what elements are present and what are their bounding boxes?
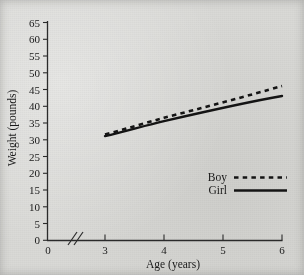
y-axis-ticks (43, 23, 48, 241)
y-tick-label: 10 (29, 201, 41, 213)
series-line-boy (105, 86, 282, 134)
x-axis-ticks (105, 235, 282, 241)
x-axis-tick-labels: 3 4 5 6 (102, 244, 285, 256)
chart-figure: 65 60 55 50 45 40 35 30 25 20 15 10 5 0 … (0, 0, 304, 275)
y-tick-label: 40 (29, 100, 41, 112)
x-tick-label: 4 (161, 244, 167, 256)
y-axis-tick-labels: 65 60 55 50 45 40 35 30 25 20 15 10 5 0 (29, 17, 41, 247)
series-line-girl (105, 96, 282, 136)
y-tick-label: 15 (29, 184, 41, 196)
weight-vs-age-line-chart: 65 60 55 50 45 40 35 30 25 20 15 10 5 0 … (0, 0, 304, 275)
x-axis-break-icon (68, 232, 83, 245)
y-axis-title: Weight (pounds) (6, 89, 19, 166)
y-tick-label: 35 (29, 117, 41, 129)
y-tick-label: 55 (29, 50, 41, 62)
y-tick-label: 5 (35, 218, 41, 230)
x-axis-title: Age (years) (146, 258, 200, 271)
chart-legend: Boy Girl (208, 171, 287, 196)
x-tick-label: 3 (102, 244, 108, 256)
x-tick-label: 6 (279, 244, 285, 256)
y-tick-label: 30 (29, 134, 41, 146)
y-tick-label: 60 (29, 33, 41, 45)
y-tick-label: 50 (29, 67, 41, 79)
y-tick-label: 45 (29, 84, 41, 96)
y-tick-label: 25 (29, 151, 41, 163)
y-tick-label: 0 (35, 234, 41, 246)
legend-label-boy: Boy (208, 171, 227, 184)
y-tick-label: 20 (29, 167, 41, 179)
x-tick-label: 5 (220, 244, 226, 256)
y-tick-label: 65 (29, 17, 41, 29)
origin-label: 0 (45, 244, 51, 256)
legend-label-girl: Girl (208, 184, 227, 196)
